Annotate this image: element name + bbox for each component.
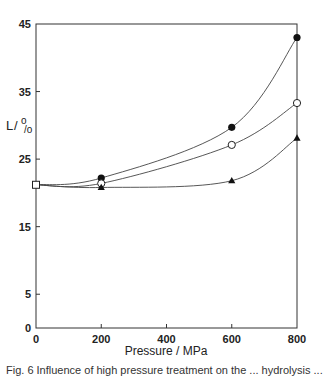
- svg-text:/: /: [14, 118, 18, 133]
- x-axis-title: Pressure / MPa: [125, 344, 208, 358]
- chart: 0515253545 0200400600800 Pressure / MPa …: [0, 0, 323, 376]
- x-axis: 0200400600800: [33, 324, 306, 345]
- figure-caption: Fig. 6 Influence of high pressure treatm…: [6, 364, 323, 376]
- x-tick-label: 200: [92, 333, 110, 345]
- marker-filled-circle: [293, 34, 300, 41]
- y-axis: 0515253545: [19, 18, 40, 334]
- series-line-filled-circle: [36, 38, 297, 185]
- marker-filled-circle: [228, 124, 235, 131]
- svg-text:/o: /o: [24, 124, 33, 135]
- svg-text:L: L: [6, 118, 13, 133]
- marker-filled-triangle: [293, 134, 300, 140]
- series-curves: [36, 38, 297, 188]
- y-tick-label: 15: [19, 221, 31, 233]
- x-tick-label: 800: [288, 333, 306, 345]
- series-line-filled-triangle: [36, 138, 297, 187]
- y-tick-label: 45: [19, 18, 31, 30]
- plot-frame: [36, 24, 297, 328]
- x-tick-label: 0: [33, 333, 39, 345]
- marker-origin-square: [33, 181, 40, 188]
- y-tick-label: 5: [25, 288, 31, 300]
- series-line-open-circle: [36, 103, 297, 187]
- marker-open-circle: [293, 99, 300, 106]
- y-tick-label: 25: [19, 153, 31, 165]
- x-tick-label: 600: [223, 333, 241, 345]
- y-tick-label: 0: [25, 322, 31, 334]
- y-tick-label: 35: [19, 86, 31, 98]
- marker-open-circle: [228, 141, 235, 148]
- y-axis-title: L / o /o: [6, 115, 33, 135]
